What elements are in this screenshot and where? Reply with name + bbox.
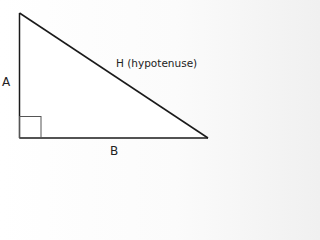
right-triangle-diagram: A H (hypotenuse) B xyxy=(0,0,209,164)
label-hypotenuse: H (hypotenuse) xyxy=(116,57,197,69)
label-side-b: B xyxy=(110,144,118,158)
label-side-a: A xyxy=(2,75,11,89)
